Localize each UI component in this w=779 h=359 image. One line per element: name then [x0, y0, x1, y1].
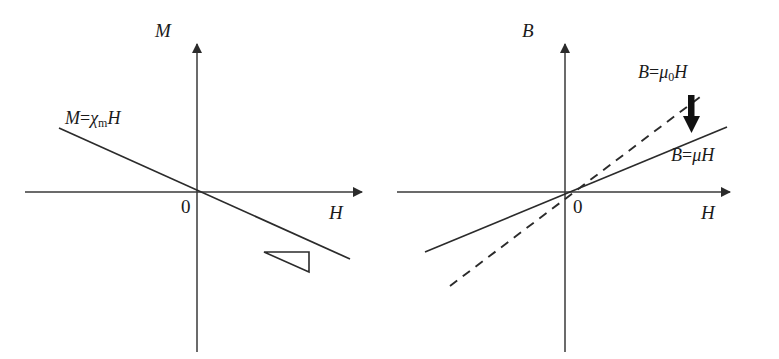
curve-label-M-chi-m-H: M=χmH — [65, 109, 120, 129]
curve-label-rhs: H — [107, 108, 120, 128]
curve-label-rhs: H — [701, 145, 714, 165]
curve-label-rhs: H — [674, 62, 687, 82]
curve-label-B-mu-H: B=μH — [671, 146, 714, 164]
panel-flux-density-vs-field: B H 0 B=μ0H B=μH — [389, 0, 779, 359]
curve-label-eq: = — [649, 62, 659, 82]
curve-label-greek: χ — [90, 108, 98, 128]
y-axis-label-B: B — [522, 21, 534, 40]
curve-M-chi-m-H — [59, 128, 350, 259]
x-axis-label-H: H — [329, 203, 343, 222]
panel-magnetization-vs-field: M H 0 M=χmH — [0, 0, 390, 359]
curve-label-lhs: B — [638, 62, 649, 82]
curve-label-greek: μ — [659, 62, 668, 82]
x-axis-label-H: H — [701, 203, 715, 222]
curve-label-eq: = — [80, 108, 90, 128]
slope-triangle — [264, 252, 309, 272]
curve-label-lhs: M — [65, 108, 80, 128]
down-arrow — [683, 95, 700, 133]
curve-label-greek: μ — [692, 145, 701, 165]
y-axis-label-M: M — [155, 21, 171, 40]
figure-root: M H 0 M=χmH — [0, 0, 779, 359]
right-panel-plot — [389, 0, 779, 359]
origin-label: 0 — [181, 197, 191, 216]
origin-label: 0 — [573, 197, 583, 216]
curve-label-B-mu0-H: B=μ0H — [638, 63, 687, 83]
curve-label-lhs: B — [671, 145, 682, 165]
curve-label-eq: = — [682, 145, 692, 165]
left-panel-plot — [0, 0, 390, 359]
